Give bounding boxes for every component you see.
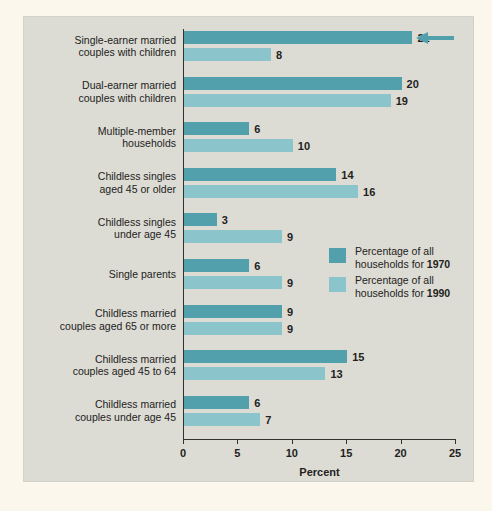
bar-group: Childless singlesaged 45 or older1416 xyxy=(24,168,473,198)
legend-label: Percentage of allhouseholds for 1970 xyxy=(355,245,450,270)
category-label-line: couples with children xyxy=(30,46,176,59)
legend-year: 1990 xyxy=(427,287,450,299)
category-label-line: Childless married xyxy=(30,307,176,320)
bar-value-label: 6 xyxy=(254,397,260,409)
legend-label-line2: households for 1990 xyxy=(355,287,450,300)
x-tick-label: 20 xyxy=(386,447,416,459)
bar-1970 xyxy=(184,31,412,44)
bar-1990 xyxy=(184,185,358,198)
bar-value-label: 6 xyxy=(254,260,260,272)
bar-value-label: 20 xyxy=(407,78,419,90)
bar-value-label: 8 xyxy=(276,49,282,61)
bar-value-label: 9 xyxy=(287,323,293,335)
x-tick xyxy=(401,439,402,444)
x-tick-label: 0 xyxy=(168,447,198,459)
bar-value-label: 19 xyxy=(396,95,408,107)
bar-value-label: 3 xyxy=(222,214,228,226)
legend-item[interactable]: Percentage of allhouseholds for 1970 xyxy=(323,245,473,274)
category-label-line: households xyxy=(30,137,176,150)
category-label-line: Childless married xyxy=(30,353,176,366)
category-label: Single parents xyxy=(30,268,176,281)
x-tick-label: 10 xyxy=(277,447,307,459)
bar-1990 xyxy=(184,48,271,61)
category-label-line: couples with children xyxy=(30,92,176,105)
figure: 0510152025 Single-earner marriedcouples … xyxy=(0,0,492,511)
category-label-line: couples under age 45 xyxy=(30,411,176,424)
category-label: Single-earner marriedcouples with childr… xyxy=(30,34,176,59)
bar-value-label: 6 xyxy=(254,123,260,135)
bar-value-label: 10 xyxy=(298,140,310,152)
category-label-line: Dual-earner married xyxy=(30,79,176,92)
bar-group: Multiple-memberhouseholds610 xyxy=(24,122,473,152)
category-label-line: Single-earner married xyxy=(30,34,176,47)
bar-value-label: 9 xyxy=(287,277,293,289)
category-label-line: Childless married xyxy=(30,398,176,411)
legend-swatch xyxy=(329,248,346,263)
bar-1990 xyxy=(184,94,391,107)
category-label: Childless singlesunder age 45 xyxy=(30,216,176,241)
category-label: Childless marriedcouples under age 45 xyxy=(30,398,176,423)
x-axis-line xyxy=(183,439,456,440)
bar-group: Childless marriedcouples under age 4567 xyxy=(24,396,473,426)
legend-label-line2: households for 1970 xyxy=(355,258,450,271)
bar-value-label: 14 xyxy=(341,169,353,181)
bar-1970 xyxy=(184,213,217,226)
legend-year: 1970 xyxy=(427,258,450,270)
category-label-line: Single parents xyxy=(30,268,176,281)
bar-group: Childless marriedcouples aged 65 or more… xyxy=(24,305,473,335)
arrow-left-icon xyxy=(416,32,454,44)
bar-1990 xyxy=(184,276,282,289)
category-label-line: couples aged 65 or more xyxy=(30,320,176,333)
legend-item[interactable]: Percentage of allhouseholds for 1990 xyxy=(323,274,473,303)
bar-1970 xyxy=(184,168,336,181)
bar-1970 xyxy=(184,396,249,409)
x-tick xyxy=(292,439,293,444)
category-label: Multiple-memberhouseholds xyxy=(30,125,176,150)
legend-label-line1: Percentage of all xyxy=(355,245,450,258)
x-axis-label: Percent xyxy=(183,466,456,478)
bar-1970 xyxy=(184,305,282,318)
bar-1970 xyxy=(184,77,402,90)
category-label-line: Childless singles xyxy=(30,170,176,183)
arrow-shaft xyxy=(427,36,454,40)
category-label: Childless marriedcouples aged 45 to 64 xyxy=(30,353,176,378)
bar-1970 xyxy=(184,122,249,135)
category-label: Childless marriedcouples aged 65 or more xyxy=(30,307,176,332)
category-label-line: Childless singles xyxy=(30,216,176,229)
bar-1990 xyxy=(184,367,325,380)
category-label-line: under age 45 xyxy=(30,228,176,241)
category-label-line: couples aged 45 to 64 xyxy=(30,365,176,378)
bar-1990 xyxy=(184,139,293,152)
bar-1970 xyxy=(184,259,249,272)
category-label-line: Multiple-member xyxy=(30,125,176,138)
bar-1970 xyxy=(184,350,347,363)
legend: Percentage of allhouseholds for 1970Perc… xyxy=(323,245,473,303)
x-tick xyxy=(183,439,184,444)
bar-value-label: 7 xyxy=(265,414,271,426)
x-tick-label: 5 xyxy=(222,447,252,459)
x-tick xyxy=(455,439,456,444)
x-tick xyxy=(346,439,347,444)
legend-swatch xyxy=(329,277,346,292)
chart-panel: 0510152025 Single-earner marriedcouples … xyxy=(24,17,473,481)
bar-value-label: 15 xyxy=(352,351,364,363)
bar-1990 xyxy=(184,413,260,426)
category-label: Childless singlesaged 45 or older xyxy=(30,170,176,195)
bar-value-label: 9 xyxy=(287,306,293,318)
legend-label: Percentage of allhouseholds for 1990 xyxy=(355,274,450,299)
x-tick xyxy=(237,439,238,444)
legend-label-line1: Percentage of all xyxy=(355,274,450,287)
bar-group: Dual-earner marriedcouples with children… xyxy=(24,77,473,107)
bar-value-label: 9 xyxy=(287,231,293,243)
x-tick-label: 15 xyxy=(331,447,361,459)
category-label: Dual-earner marriedcouples with children xyxy=(30,79,176,104)
bar-group: Childless marriedcouples aged 45 to 6415… xyxy=(24,350,473,380)
bar-group: Single-earner marriedcouples with childr… xyxy=(24,31,473,61)
x-tick-label: 25 xyxy=(440,447,470,459)
bar-value-label: 16 xyxy=(363,186,375,198)
bar-value-label: 13 xyxy=(330,368,342,380)
plot-area: 0510152025 Single-earner marriedcouples … xyxy=(24,17,473,481)
bar-group: Childless singlesunder age 4539 xyxy=(24,213,473,243)
bar-1990 xyxy=(184,322,282,335)
bar-1990 xyxy=(184,230,282,243)
